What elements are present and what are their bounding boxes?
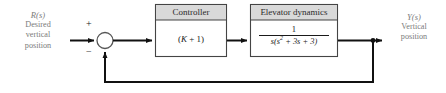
output-desc-line1: Vertical — [401, 22, 426, 31]
denominator-tail: + 3s + 3) — [283, 37, 317, 46]
output-symbol: Y(s) — [384, 12, 444, 22]
input-desc-line3: position — [25, 41, 51, 50]
denominator-lead: s(s — [271, 37, 280, 46]
input-desc-line1: Desired — [25, 20, 50, 29]
summing-junction-circle — [97, 33, 113, 49]
output-label: Y(s) Vertical position — [384, 12, 444, 43]
input-label: R(s) Desired vertical position — [6, 10, 70, 51]
elevator-transfer-function: 1 s(s2 + 3s + 3) — [251, 24, 337, 47]
controller-block-body: (K + 1) — [156, 34, 226, 44]
transfer-function-numerator: 1 — [251, 24, 337, 35]
controller-gain-offset: + 1) — [187, 34, 204, 44]
fraction-bar — [259, 35, 329, 36]
input-desc-line2: vertical — [26, 30, 51, 39]
output-desc-line2: position — [401, 32, 427, 41]
plus-sign-icon: + — [86, 19, 92, 29]
minus-sign-icon: − — [86, 47, 92, 57]
block-diagram: R(s) Desired vertical position Y(s) Vert… — [0, 0, 446, 93]
input-symbol: R(s) — [6, 10, 70, 20]
transfer-function-denominator: s(s2 + 3s + 3) — [251, 37, 337, 47]
elevator-dynamics-block-title: Elevator dynamics — [251, 8, 337, 17]
controller-block-title: Controller — [156, 8, 226, 17]
